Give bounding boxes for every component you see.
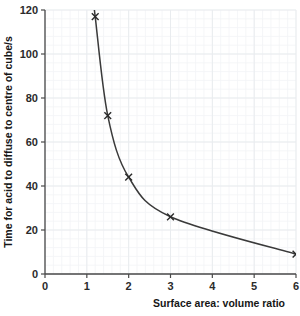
y-tick-label: 100	[20, 48, 38, 60]
x-tick-label: 0	[42, 280, 48, 292]
x-tick-label: 1	[84, 280, 90, 292]
y-axis-title: Time for acid to diffuse to centre of cu…	[2, 36, 14, 248]
x-tick-label: 5	[251, 280, 257, 292]
x-axis-title: Surface area: volume ratio	[153, 297, 285, 309]
x-tick-label: 4	[209, 280, 216, 292]
x-tick-label: 2	[126, 280, 132, 292]
y-tick-label: 40	[26, 180, 38, 192]
y-tick-label: 0	[32, 268, 38, 280]
y-tick-label: 80	[26, 92, 38, 104]
x-tick-label: 3	[167, 280, 173, 292]
chart-svg: 0123456 020406080100120 Surface area: vo…	[0, 0, 300, 316]
y-tick-label: 120	[20, 4, 38, 16]
y-tick-label: 60	[26, 136, 38, 148]
x-tick-label: 6	[293, 280, 299, 292]
chart-container: 0123456 020406080100120 Surface area: vo…	[0, 0, 300, 316]
y-tick-label: 20	[26, 224, 38, 236]
